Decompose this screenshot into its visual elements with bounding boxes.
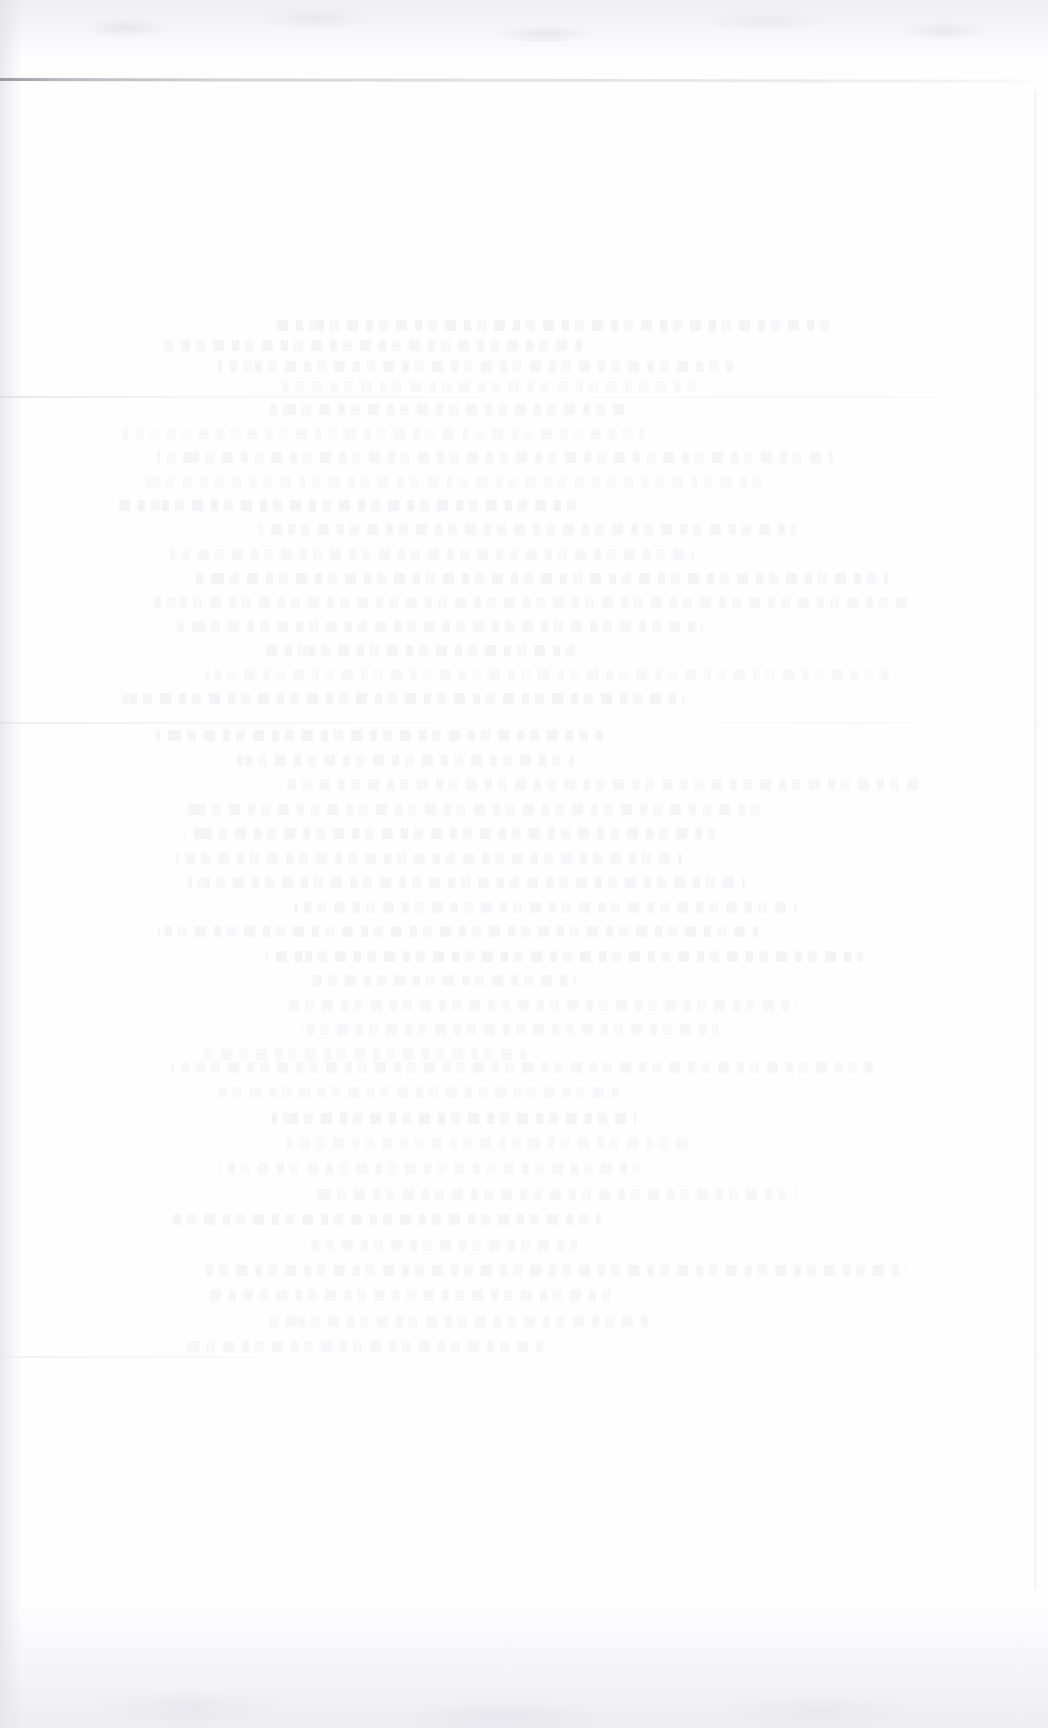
faint-rule-lower [0, 1356, 1048, 1358]
faint-rule-middle [0, 722, 1048, 724]
faint-rule-upper [0, 396, 1048, 398]
paper-background [0, 0, 1048, 1728]
scanned-page [0, 0, 1048, 1728]
bottom-shading-band [0, 1598, 1048, 1728]
top-mottled-band [0, 0, 1048, 62]
right-edge-line [1034, 90, 1037, 1590]
left-edge-shading [0, 0, 22, 1728]
